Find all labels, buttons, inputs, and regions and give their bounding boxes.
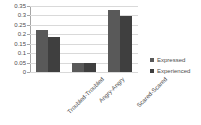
y-axis-tick-label: 0.1 (0, 50, 26, 56)
y-axis-tick-mark (27, 63, 30, 64)
bar (108, 10, 120, 72)
y-axis-tick-mark (27, 15, 30, 16)
chart-legend: ExpressedExperienced (150, 54, 201, 76)
gridline (30, 72, 138, 73)
y-axis-tick-mark (27, 72, 30, 73)
bar (120, 16, 132, 72)
y-axis-tick-mark (27, 6, 30, 7)
bar (48, 37, 60, 72)
bar (72, 63, 84, 72)
legend-label: Expressed (157, 57, 185, 63)
y-axis-tick-label: 0.15 (0, 41, 26, 47)
y-axis-tick-label: 0.05 (0, 60, 26, 66)
legend-item[interactable]: Expressed (150, 54, 201, 65)
y-axis-tick-labels: 00.050.10.150.20.250.30.35 (0, 0, 26, 125)
plot-area (30, 6, 138, 72)
y-axis-tick-mark (27, 25, 30, 26)
bar (84, 63, 96, 72)
bar-group (108, 6, 132, 72)
y-axis-tick-label: 0.3 (0, 12, 26, 18)
y-axis-tick-label: 0.35 (0, 3, 26, 9)
bar-group (36, 6, 60, 72)
x-axis-category-label: Scared-Scared (136, 76, 169, 109)
y-axis-tick-mark (27, 34, 30, 35)
bar (36, 30, 48, 72)
y-axis-tick-mark (27, 53, 30, 54)
y-axis-tick-label: 0.25 (0, 22, 26, 28)
legend-swatch-icon (150, 58, 154, 62)
bar-chart: 00.050.10.150.20.250.30.35 ExpressedExpe… (0, 0, 201, 125)
legend-label: Experienced (157, 68, 190, 74)
legend-swatch-icon (150, 69, 154, 73)
y-axis-tick-label: 0 (0, 69, 26, 75)
y-axis-tick-label: 0.2 (0, 31, 26, 37)
bar-group (72, 6, 96, 72)
legend-item[interactable]: Experienced (150, 65, 201, 76)
y-axis-tick-mark (27, 44, 30, 45)
